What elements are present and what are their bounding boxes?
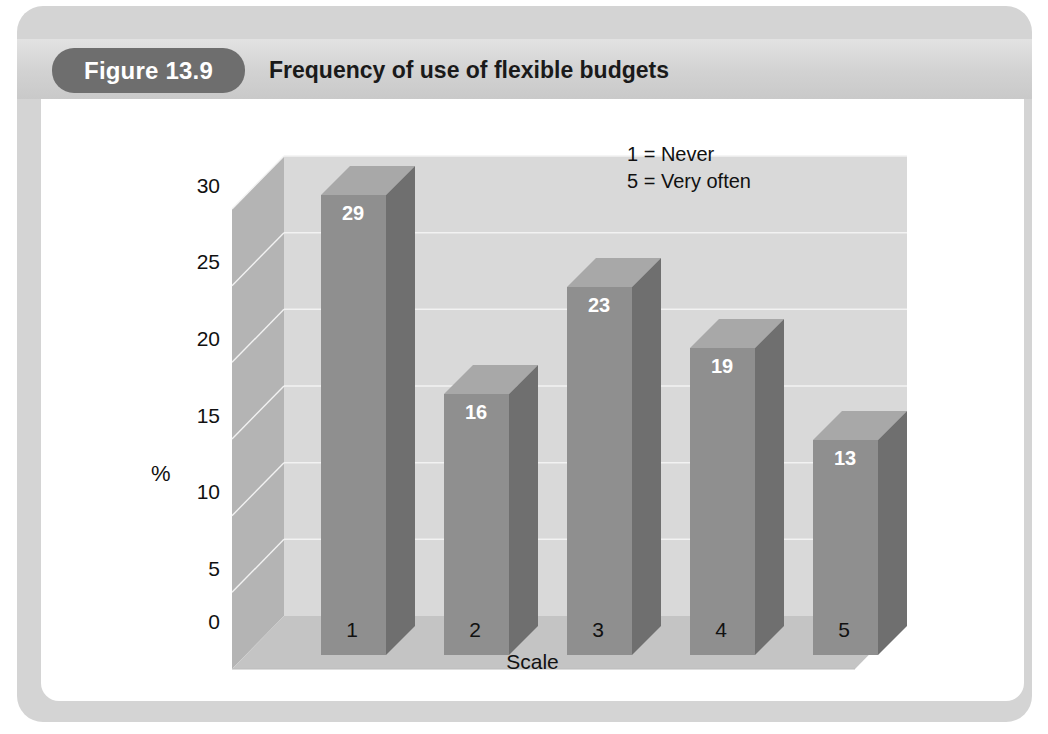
legend-entry-never: 1 = Never [627,141,751,168]
y-tick-20: 20 [166,327,220,351]
y-axis-title: % [151,461,171,487]
bar-3 [567,258,661,655]
x-tick-5: 5 [814,618,874,642]
bar-1 [321,166,415,655]
x-tick-4: 4 [691,618,751,642]
y-tick-5: 5 [166,557,220,581]
figure-number-badge: Figure 13.9 [52,48,245,93]
y-tick-30: 30 [166,174,220,198]
x-tick-3: 3 [568,618,628,642]
bar-value-3: 23 [564,294,634,317]
bar-value-2: 16 [441,401,511,424]
bar-value-1: 29 [318,202,388,225]
y-tick-15: 15 [166,404,220,428]
figure-title: Frequency of use of flexible budgets [269,48,669,93]
x-tick-2: 2 [445,618,505,642]
chart-legend: 1 = Never 5 = Very often [627,141,751,195]
y-tick-10: 10 [166,480,220,504]
y-tick-0: 0 [166,610,220,634]
bar-value-4: 19 [687,355,757,378]
bar-value-5: 13 [810,447,880,470]
chart-panel: 29 16 23 19 13 30 25 20 15 10 5 0 % 1 2 … [41,99,1024,701]
bar-chart-3d: 29 16 23 19 13 30 25 20 15 10 5 0 % 1 2 … [41,99,1024,701]
x-axis-title: Scale [41,650,1024,674]
x-tick-1: 1 [322,618,382,642]
legend-entry-very-often: 5 = Very often [627,168,751,195]
figure-card: Figure 13.9 Frequency of use of flexible… [17,6,1032,722]
y-tick-25: 25 [166,250,220,274]
